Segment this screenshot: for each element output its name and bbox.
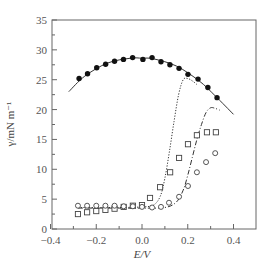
filled-circle-marker bbox=[158, 59, 163, 64]
open-square-marker bbox=[75, 211, 80, 216]
filled-circle-marker bbox=[103, 61, 108, 66]
filled-circle-marker bbox=[195, 76, 200, 81]
filled-circle-marker bbox=[112, 59, 117, 64]
open-square-marker bbox=[176, 155, 181, 160]
y-axis: 05101520253035 bbox=[36, 14, 57, 235]
y-tick-label: 25 bbox=[36, 74, 48, 86]
open-square-marker bbox=[213, 130, 218, 135]
open-circle-marker bbox=[166, 200, 171, 205]
y-tick-label: 5 bbox=[42, 193, 48, 205]
open-circle-marker bbox=[204, 160, 209, 165]
open-circle-marker bbox=[150, 205, 155, 210]
open-circle-marker bbox=[213, 151, 218, 156]
open-square-marker bbox=[194, 133, 199, 138]
y-tick-label: 20 bbox=[36, 104, 48, 116]
data-series bbox=[69, 55, 234, 217]
filled-circle-marker bbox=[176, 66, 181, 71]
filled-circle-marker bbox=[167, 62, 172, 67]
chart: 05101520253035 −0.4−0.20.00.20.4 E/V γ/m… bbox=[0, 0, 269, 278]
open-circle-marker bbox=[112, 203, 117, 208]
filled-circle-marker bbox=[140, 57, 145, 62]
open-circle-marker bbox=[94, 203, 99, 208]
filled-circle-marker bbox=[76, 76, 81, 81]
x-axis-label: E/V bbox=[133, 248, 152, 260]
filled-circle-marker bbox=[205, 85, 210, 90]
filled-circle-marker bbox=[149, 55, 154, 60]
open-circle-marker bbox=[75, 203, 80, 208]
open-square-marker bbox=[157, 185, 162, 190]
filled-circle-marker bbox=[130, 55, 135, 60]
filled-circle-marker bbox=[214, 95, 219, 100]
y-tick-label: 30 bbox=[36, 44, 48, 56]
open-square-marker bbox=[85, 210, 90, 215]
open-circle-marker bbox=[103, 203, 108, 208]
open-circle-marker bbox=[85, 203, 90, 208]
dash-dot-curve bbox=[78, 108, 220, 209]
x-tick-label: −0.2 bbox=[86, 234, 106, 246]
open-circle-marker bbox=[158, 204, 163, 209]
x-tick-label: 0.2 bbox=[181, 234, 195, 246]
plot-border bbox=[52, 20, 256, 229]
open-circle-marker bbox=[177, 194, 182, 199]
x-tick-label: 0.4 bbox=[227, 234, 241, 246]
open-square-marker bbox=[168, 170, 173, 175]
x-tick-label: −0.4 bbox=[41, 234, 61, 246]
open-circle-marker bbox=[185, 184, 190, 189]
open-circle-marker bbox=[194, 170, 199, 175]
y-tick-label: 35 bbox=[36, 14, 48, 26]
filled-circle-marker bbox=[121, 57, 126, 62]
filled-circle-marker bbox=[94, 65, 99, 70]
open-square-marker bbox=[185, 142, 190, 147]
open-square-marker bbox=[204, 130, 209, 135]
open-circle-marker bbox=[121, 204, 126, 209]
open-circle-marker bbox=[140, 204, 145, 209]
y-axis-label: γ/mN m⁻¹ bbox=[4, 102, 16, 148]
x-tick-label: 0.0 bbox=[135, 234, 149, 246]
y-tick-label: 15 bbox=[36, 133, 48, 145]
filled-circle-marker bbox=[85, 71, 90, 76]
open-square-marker bbox=[94, 208, 99, 213]
plot-frame bbox=[52, 20, 256, 229]
dotted-curve bbox=[78, 78, 197, 208]
open-circle-marker bbox=[130, 204, 135, 209]
x-axis: −0.4−0.20.00.20.4 bbox=[41, 224, 241, 246]
y-tick-label: 10 bbox=[36, 163, 48, 175]
filled-circle-marker bbox=[185, 72, 190, 77]
open-square-marker bbox=[147, 195, 152, 200]
